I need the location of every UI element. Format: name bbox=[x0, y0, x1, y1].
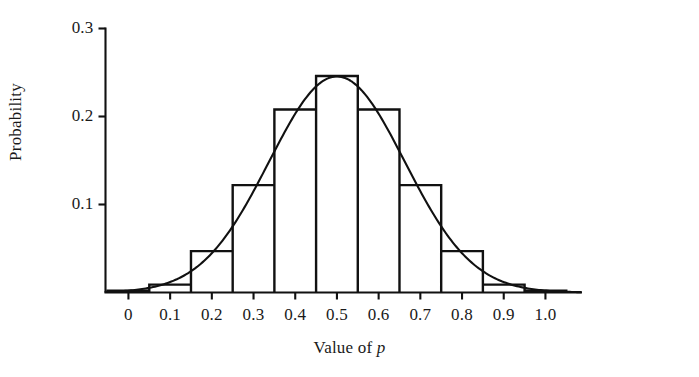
histogram-bars bbox=[108, 76, 567, 292]
x-tick-label: 1.0 bbox=[523, 305, 567, 325]
x-tick-label: 0.2 bbox=[190, 305, 234, 325]
x-tick-label: 0.4 bbox=[273, 305, 317, 325]
probability-histogram-figure: Probability Value of p 0.10.20.3 00.10.2… bbox=[0, 0, 699, 377]
y-tick-label: 0.3 bbox=[48, 18, 94, 38]
axes bbox=[106, 29, 581, 293]
y-tick-label: 0.2 bbox=[48, 106, 94, 126]
normal-curve bbox=[106, 76, 581, 292]
x-tick-label: 0.5 bbox=[315, 305, 359, 325]
x-tick-label: 0.9 bbox=[482, 305, 526, 325]
x-tick-label: 0.8 bbox=[440, 305, 484, 325]
x-tick-label: 0.1 bbox=[148, 305, 192, 325]
x-tick-label: 0.7 bbox=[398, 305, 442, 325]
x-tick-label: 0.6 bbox=[357, 305, 401, 325]
x-tick-label: 0 bbox=[106, 305, 150, 325]
x-tick-label: 0.3 bbox=[232, 305, 276, 325]
y-tick-label: 0.1 bbox=[48, 194, 94, 214]
